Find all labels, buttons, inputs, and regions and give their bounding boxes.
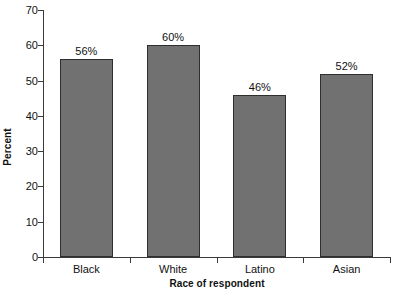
y-axis-tick-mark [38, 81, 43, 82]
x-axis-tick-mark [217, 258, 218, 263]
bar-value-label: 46% [249, 82, 271, 93]
y-axis-tick-mark [38, 45, 43, 46]
y-axis-tick-labels: 010203040506070 [18, 0, 38, 294]
y-axis-tick-label: 10 [18, 216, 38, 227]
bar[interactable]: 60% [147, 45, 200, 257]
x-axis-category-label: Black [73, 264, 100, 275]
y-axis-tick-mark [38, 222, 43, 223]
y-axis-tick-label: 60 [18, 40, 38, 51]
x-axis-title: Race of respondent [43, 279, 391, 289]
x-axis-tick-mark [390, 258, 391, 263]
y-axis-title: Percent [0, 0, 16, 294]
plot-area: 56%60%46%52% [43, 10, 390, 257]
y-axis-tick-label: 40 [18, 110, 38, 121]
y-axis-tick-label: 20 [18, 181, 38, 192]
x-axis-category-label: Latino [245, 264, 275, 275]
y-axis-tick-label: 30 [18, 146, 38, 157]
bar[interactable]: 56% [60, 59, 113, 257]
bar-chart: Percent 010203040506070 56%60%46%52% Rac… [0, 0, 401, 294]
x-axis-category-label: Asian [333, 264, 361, 275]
x-axis-category-label: White [159, 264, 187, 275]
y-axis-tick-mark [38, 186, 43, 187]
bar[interactable]: 52% [320, 74, 373, 257]
bar-value-label: 56% [75, 46, 97, 57]
y-axis-tick-mark [38, 116, 43, 117]
x-axis-tick-mark [43, 258, 44, 263]
y-axis-tick-label: 50 [18, 75, 38, 86]
y-axis-tick-mark [38, 151, 43, 152]
x-axis-tick-mark [303, 258, 304, 263]
y-axis-tick-label: 70 [18, 5, 38, 16]
bar-value-label: 52% [336, 61, 358, 72]
x-axis-tick-mark [130, 258, 131, 263]
y-axis-tick-label: 0 [18, 252, 38, 263]
y-axis-tick-mark [38, 10, 43, 11]
bar[interactable]: 46% [233, 95, 286, 257]
bar-value-label: 60% [162, 32, 184, 43]
